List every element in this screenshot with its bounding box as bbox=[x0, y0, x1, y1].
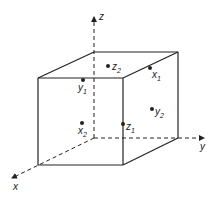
point-z2-label: z2 bbox=[111, 61, 121, 74]
point-y1-label: y1 bbox=[77, 82, 87, 95]
cube-diagram: xyz z2x1y1y2x2z1 bbox=[0, 0, 218, 197]
point-x1-label: x1 bbox=[151, 69, 161, 82]
point-y2-label: y2 bbox=[154, 106, 164, 119]
point-y2-dot bbox=[150, 107, 154, 111]
diagram-canvas: xyz z2x1y1y2x2z1 bbox=[0, 0, 218, 197]
x-axis bbox=[12, 138, 94, 178]
point-z1-dot bbox=[121, 122, 125, 126]
z-axis-label: z bbox=[98, 11, 104, 22]
x-axis-label: x bbox=[12, 181, 19, 192]
cube-edge-bottom-right-depth bbox=[123, 138, 178, 165]
points-group: z2x1y1y2x2z1 bbox=[77, 61, 164, 138]
cube-edge-top-left-depth bbox=[38, 52, 94, 78]
point-z1-label: z1 bbox=[125, 121, 135, 134]
point-z2-dot bbox=[106, 64, 110, 68]
cube-edge-top-right-depth bbox=[123, 52, 178, 78]
point-x2-label: x2 bbox=[77, 125, 87, 138]
y-axis-label: y bbox=[199, 141, 206, 152]
